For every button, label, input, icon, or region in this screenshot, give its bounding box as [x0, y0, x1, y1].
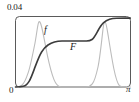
curve-label-F: F [70, 42, 76, 52]
curve-f [16, 22, 131, 87]
chart-figure: 0.04 0 π f F [0, 0, 139, 102]
y-axis-max-label: 0.04 [7, 3, 22, 12]
origin-label: 0 [9, 86, 14, 95]
curve-label-f: f [44, 25, 47, 35]
x-axis-max-label: π [126, 85, 131, 94]
